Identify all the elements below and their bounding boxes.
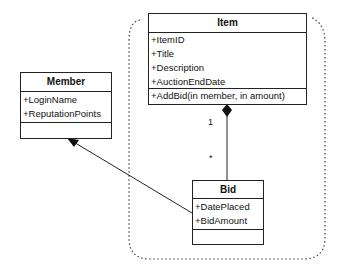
class-member-attributes: +LoginName +ReputationPoints bbox=[21, 92, 111, 123]
attribute: +Title bbox=[151, 47, 306, 61]
attribute: +ReputationPoints bbox=[23, 107, 111, 121]
uml-class-diagram: Item +ItemID +Title +Description +Auctio… bbox=[0, 0, 340, 272]
attribute: +AuctionEndDate bbox=[151, 75, 306, 89]
class-member-methods bbox=[21, 123, 111, 138]
class-item-methods: +AddBid(in member, in amount) bbox=[149, 89, 306, 104]
association-arrowhead-icon bbox=[67, 138, 79, 147]
method: +AddBid(in member, in amount) bbox=[151, 89, 306, 103]
multiplicity-item: 1 bbox=[208, 117, 213, 127]
class-item-attributes: +ItemID +Title +Description +AuctionEndD… bbox=[149, 33, 306, 89]
class-item-name: Item bbox=[149, 14, 306, 33]
attribute: +LoginName bbox=[23, 93, 111, 107]
attribute: +Description bbox=[151, 61, 306, 75]
class-item[interactable]: Item +ItemID +Title +Description +Auctio… bbox=[148, 13, 307, 105]
class-bid-attributes: +DatePlaced +BidAmount bbox=[193, 199, 263, 230]
class-bid[interactable]: Bid +DatePlaced +BidAmount bbox=[192, 180, 264, 245]
class-member-name: Member bbox=[21, 73, 111, 92]
multiplicity-bid: * bbox=[209, 153, 213, 163]
attribute: +ItemID bbox=[151, 33, 306, 47]
composition-diamond-icon bbox=[222, 104, 232, 117]
association-line bbox=[72, 141, 192, 213]
attribute: +BidAmount bbox=[195, 214, 263, 228]
class-bid-methods bbox=[193, 230, 263, 244]
attribute: +DatePlaced bbox=[195, 200, 263, 214]
class-bid-name: Bid bbox=[193, 181, 263, 199]
class-member[interactable]: Member +LoginName +ReputationPoints bbox=[20, 72, 112, 139]
